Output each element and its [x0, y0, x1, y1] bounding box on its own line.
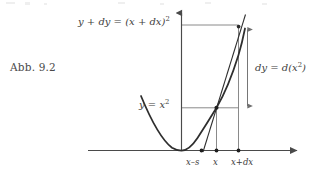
- figure-page: Abb. 9.2 y + dy = (x + dx)2 y = x2 dy = …: [0, 0, 314, 177]
- differential-label: dy = d(x2): [255, 63, 306, 73]
- figure-caption: Abb. 9.2: [10, 62, 56, 73]
- figure-caption-text: Abb. 9.2: [10, 61, 56, 73]
- lower-curve-label-exponent: 2: [165, 98, 169, 106]
- tangent-line: [203, 15, 246, 153]
- lower-curve-label: y = x2: [139, 100, 169, 110]
- tick-dot-x: [215, 149, 219, 153]
- x-tick-label-x-plus-dx: x+dx: [231, 158, 253, 167]
- x-tick-label-x: x: [213, 158, 218, 167]
- differential-label-text: dy = d(x: [255, 62, 298, 73]
- x-tick-label-x-minus-s: x–s: [186, 158, 199, 167]
- point-on-curve-at-x-plus-dx: [237, 25, 241, 29]
- tick-dot-x-minus-s: [200, 149, 204, 153]
- point-on-curve-at-x: [214, 106, 218, 110]
- differential-label-close: ): [302, 62, 306, 73]
- upper-curve-label-text: y + dy = (x + dx): [78, 16, 165, 27]
- tick-dot-x-plus-dx: [237, 149, 241, 153]
- parabola-curve: [141, 29, 245, 151]
- lower-curve-label-text: y = x: [139, 99, 165, 110]
- upper-curve-label-exponent: 2: [165, 15, 169, 23]
- upper-curve-label: y + dy = (x + dx)2: [78, 17, 170, 27]
